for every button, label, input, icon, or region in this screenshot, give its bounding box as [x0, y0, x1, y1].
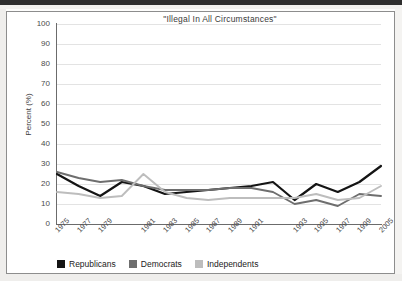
legend-label: Democrats: [141, 259, 182, 269]
page-bottom-margin: [0, 274, 402, 281]
y-tick-label: 40: [20, 139, 50, 148]
legend-swatch-icon: [195, 260, 203, 268]
page-right-margin: [395, 9, 402, 281]
gridline: [57, 44, 381, 45]
gridline: [57, 184, 381, 185]
gridline: [57, 24, 381, 25]
y-tick-label: 90: [20, 39, 50, 48]
legend-label: Republicans: [69, 259, 116, 269]
legend-swatch-icon: [129, 260, 137, 268]
chart-title: "Illegal In All Circumstances": [70, 14, 370, 24]
chart-page: "Illegal In All Circumstances" Percent (…: [0, 0, 402, 281]
y-tick-label: 50: [20, 119, 50, 128]
gridline: [57, 104, 381, 105]
y-tick-label: 80: [20, 59, 50, 68]
y-tick-label: 30: [20, 159, 50, 168]
y-tick-label: 0: [20, 219, 50, 228]
legend-item-independents[interactable]: Independents: [195, 259, 259, 269]
legend-item-republicans[interactable]: Republicans: [57, 259, 116, 269]
legend-label: Independents: [207, 259, 259, 269]
gridline: [57, 124, 381, 125]
y-tick-label: 20: [20, 179, 50, 188]
y-tick-label: 10: [20, 199, 50, 208]
gridline: [57, 64, 381, 65]
y-tick-label: 70: [20, 79, 50, 88]
y-tick-label: 100: [20, 19, 50, 28]
page-top-margin: [0, 5, 402, 9]
gridline: [57, 84, 381, 85]
gridline: [57, 164, 381, 165]
gridline: [57, 144, 381, 145]
legend-swatch-icon: [57, 260, 65, 268]
chart-legend: RepublicansDemocratsIndependents: [57, 259, 258, 269]
gridline: [57, 204, 381, 205]
y-tick-label: 60: [20, 99, 50, 108]
legend-item-democrats[interactable]: Democrats: [129, 259, 182, 269]
plot-area: [57, 24, 381, 224]
